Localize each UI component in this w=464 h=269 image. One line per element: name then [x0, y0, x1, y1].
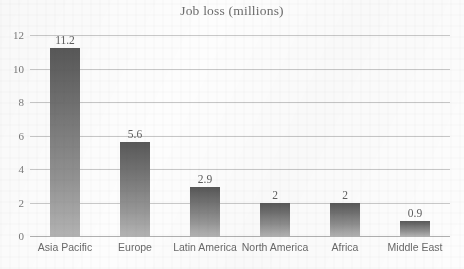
bar-slot: 2 [240, 35, 310, 236]
bar[interactable]: 2.9 [190, 187, 220, 236]
y-tick-label: 0 [0, 230, 24, 242]
category-label: Africa [332, 241, 359, 253]
bars-group: 11.25.62.9220.9 [30, 35, 450, 236]
y-tick-label: 8 [0, 96, 24, 108]
bar-chart: Job loss (millions) 024681012 11.25.62.9… [0, 0, 464, 269]
bar[interactable]: 11.2 [50, 48, 80, 236]
y-tick-label: 12 [0, 29, 24, 41]
category-label: North America [242, 241, 309, 253]
x-axis-category-labels: Asia PacificEuropeLatin AmericaNorth Ame… [30, 241, 450, 261]
bar-value-label: 2 [272, 189, 278, 201]
category-label: Latin America [173, 241, 237, 253]
chart-title: Job loss (millions) [0, 3, 464, 19]
category-label: Europe [118, 241, 152, 253]
bar-slot: 5.6 [100, 35, 170, 236]
category-label: Asia Pacific [38, 241, 92, 253]
y-tick-label: 6 [0, 130, 24, 142]
bar-value-label: 11.2 [55, 34, 75, 46]
bar-slot: 2.9 [170, 35, 240, 236]
bar[interactable]: 5.6 [120, 142, 150, 236]
bar-value-label: 2.9 [198, 173, 212, 185]
bar[interactable]: 2 [260, 203, 290, 237]
y-tick-label: 2 [0, 197, 24, 209]
bar-slot: 2 [310, 35, 380, 236]
bar[interactable]: 2 [330, 203, 360, 237]
bar[interactable]: 0.9 [400, 221, 430, 236]
y-tick-label: 4 [0, 163, 24, 175]
bar-slot: 0.9 [380, 35, 450, 236]
gridline [30, 236, 450, 237]
bar-value-label: 2 [342, 189, 348, 201]
y-tick-label: 10 [0, 63, 24, 75]
bar-value-label: 0.9 [408, 207, 422, 219]
bar-value-label: 5.6 [128, 128, 142, 140]
bar-slot: 11.2 [30, 35, 100, 236]
category-label: Middle East [388, 241, 443, 253]
